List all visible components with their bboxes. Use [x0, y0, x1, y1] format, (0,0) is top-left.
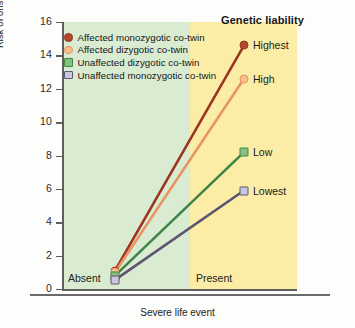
y-tick-mark: [56, 189, 62, 190]
legend-item: Affected monozygotic co-twin: [64, 31, 216, 44]
legend: Affected monozygotic co-twinAffected diz…: [64, 31, 216, 81]
legend-item: Unaffected monozygotic co-twin: [64, 69, 216, 82]
series-end-label: Lowest: [253, 185, 286, 197]
y-tick-label: 12: [12, 82, 52, 94]
y-tick-mark: [56, 55, 62, 56]
y-tick-label: 2: [12, 249, 52, 261]
series-end-label: High: [253, 73, 275, 85]
y-tick-mark: [56, 156, 62, 157]
y-tick-label: 6: [12, 182, 52, 194]
y-tick-label: 14: [12, 48, 52, 60]
x-category-present: Present: [196, 272, 232, 284]
legend-swatch-icon: [64, 46, 73, 55]
series-line: [115, 152, 244, 275]
genetic-liability-title: Genetic liability: [221, 14, 304, 26]
series-line: [115, 79, 244, 273]
legend-item: Unaffected dizygotic co-twin: [64, 56, 216, 69]
legend-swatch-icon: [64, 71, 73, 80]
x-axis-baseline: [30, 294, 330, 296]
legend-label: Affected dizygotic co-twin: [78, 44, 188, 55]
y-axis-title: Risk of onset of major depression (perce…: [0, 0, 5, 48]
legend-item: Affected dizygotic co-twin: [64, 44, 216, 57]
data-point-marker: [240, 41, 249, 50]
x-axis-title: Severe life event: [0, 307, 355, 318]
y-tick-label: 10: [12, 115, 52, 127]
y-tick-label: 16: [12, 15, 52, 27]
data-point-marker: [111, 275, 120, 284]
y-tick-mark: [56, 289, 62, 290]
legend-swatch-icon: [64, 58, 73, 67]
y-tick-label: 8: [12, 149, 52, 161]
legend-label: Unaffected monozygotic co-twin: [78, 70, 217, 81]
legend-swatch-icon: [64, 33, 73, 42]
y-tick-label: 4: [12, 215, 52, 227]
x-axis-line: [62, 289, 297, 291]
y-tick-mark: [56, 222, 62, 223]
series-end-label: Highest: [253, 39, 289, 51]
legend-label: Unaffected dizygotic co-twin: [78, 57, 200, 68]
y-tick-mark: [56, 22, 62, 23]
data-point-marker: [240, 148, 249, 157]
y-tick-mark: [56, 122, 62, 123]
y-tick-mark: [56, 89, 62, 90]
series-end-label: Low: [253, 146, 272, 158]
y-tick-mark: [56, 256, 62, 257]
data-point-marker: [240, 186, 249, 195]
chart-figure: 0246810121416 Risk of onset of major dep…: [0, 0, 355, 328]
data-point-marker: [240, 74, 249, 83]
x-category-absent: Absent: [68, 272, 101, 284]
y-tick-label: 0: [12, 282, 52, 294]
legend-label: Affected monozygotic co-twin: [78, 32, 205, 43]
